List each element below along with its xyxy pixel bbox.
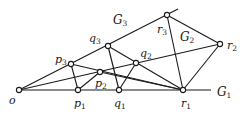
label-r3: r3 — [157, 23, 167, 37]
label-p3: p3 — [55, 53, 67, 67]
label-r1: r1 — [181, 97, 191, 111]
label-g2: G2 — [180, 30, 195, 45]
label-o: o — [9, 94, 16, 107]
point-r1 — [180, 87, 185, 92]
point-o — [16, 87, 21, 92]
label-r2: r2 — [227, 39, 237, 53]
point-r2 — [217, 41, 222, 46]
label-p2: p2 — [95, 77, 107, 91]
point-q3 — [105, 43, 110, 48]
geometric-diagram: o p1 q1 r1 p2 q2 r2 p3 q3 r3 G1 G2 G3 — [0, 0, 247, 122]
point-q1 — [116, 87, 121, 92]
label-q1: q1 — [114, 97, 126, 111]
label-p1: p1 — [74, 97, 86, 111]
label-g3: G3 — [113, 13, 128, 28]
label-q3: q3 — [89, 32, 101, 46]
label-g1: G1 — [217, 85, 231, 100]
point-p1 — [75, 87, 80, 92]
label-q2: q2 — [140, 47, 152, 61]
point-q2 — [133, 60, 138, 65]
edge-p2-r1 — [100, 72, 183, 90]
point-p2 — [97, 69, 102, 74]
point-p3 — [68, 61, 73, 66]
line-g2 — [19, 44, 220, 90]
point-r3 — [164, 12, 169, 17]
